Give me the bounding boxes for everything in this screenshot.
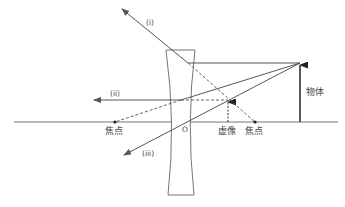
lens-center-label: O bbox=[182, 125, 188, 134]
ray-3 bbox=[124, 63, 300, 155]
ray-1-extension bbox=[188, 63, 255, 122]
object-label: 物体 bbox=[306, 86, 324, 97]
focus-right-label: 焦点 bbox=[245, 125, 263, 136]
ray-1-refracted bbox=[122, 9, 188, 63]
ray-3-label: (iii) bbox=[142, 149, 154, 158]
ray-1-label: (i) bbox=[146, 18, 154, 27]
focus-left-label: 焦点 bbox=[105, 125, 123, 136]
ray-2-label: (ii) bbox=[110, 89, 120, 98]
concave-lens-ray-diagram: (i) (ii) (iii) 物体 虚像 焦点 焦点 O bbox=[0, 0, 345, 207]
virtual-image-label: 虚像 bbox=[218, 125, 236, 136]
